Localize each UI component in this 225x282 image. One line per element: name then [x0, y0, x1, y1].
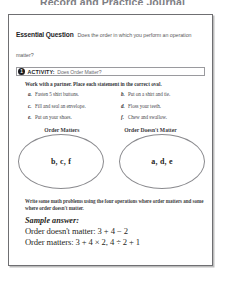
- activity-label: ACTIVITY:: [28, 69, 55, 75]
- page-header-title: Record and Practice Journal: [0, 0, 225, 5]
- activity-title: Does Order Matter?: [57, 69, 101, 75]
- oval-order-matters: b, c, f: [18, 134, 104, 189]
- list-item-label: Chew and swallow.: [128, 114, 167, 120]
- sample-answer-heading: Sample answer:: [25, 216, 205, 225]
- oval-label-row: Order Matters Order Doesn't Matter: [16, 127, 205, 133]
- oval-label-order-doesnt-matter: Order Doesn't Matter: [124, 127, 176, 133]
- worksheet-page: Essential Question Does the order in whi…: [8, 14, 213, 266]
- list-item: d. Floss your teeth.: [121, 103, 206, 109]
- oval-order-matters-answer: b, c, f: [51, 157, 71, 166]
- list-item: c. Fill and seal an envelope.: [28, 103, 121, 109]
- oval-label-order-matters: Order Matters: [44, 127, 79, 133]
- list-item-label: Fasten 5 shirt buttons.: [35, 91, 79, 97]
- list-item-label: Floss your teeth.: [128, 103, 161, 109]
- essential-question-label: Essential Question: [16, 31, 74, 38]
- list-item-letter: b.: [121, 91, 128, 97]
- list-item-letter: e.: [28, 114, 35, 120]
- essential-question-block: Essential Question Does the order in whi…: [16, 22, 205, 62]
- oval-order-doesnt-matter: a, d, e: [119, 134, 205, 189]
- activity-header-bar: 1 ACTIVITY: Does Order Matter?: [16, 67, 205, 76]
- list-item: b. Put on a shirt and tie.: [121, 91, 206, 97]
- directions-text: Work with a partner. Place each statemen…: [25, 81, 205, 87]
- list-item-letter: a.: [28, 91, 35, 97]
- sample-answer-line-order-matters: Order matters: 3 + 4 × 2, 4 ÷ 2 + 1: [25, 237, 205, 247]
- oval-diagram: b, c, f a, d, e: [16, 134, 205, 192]
- list-item: f. Chew and swallow.: [121, 114, 206, 120]
- list-item-label: Fill and seal an envelope.: [35, 103, 86, 109]
- activity-number-badge: 1: [18, 68, 25, 75]
- oval-order-doesnt-matter-answer: a, d, e: [151, 157, 172, 166]
- list-item-label: Put on your shoes.: [35, 114, 72, 120]
- writing-prompt-text: Write some math problems using the four …: [25, 198, 205, 213]
- list-item-letter: f.: [121, 114, 128, 120]
- list-item-label: Put on a shirt and tie.: [128, 91, 170, 97]
- list-item: a. Fasten 5 shirt buttons.: [28, 91, 121, 97]
- list-item-letter: c.: [28, 103, 35, 109]
- statement-list: a. Fasten 5 shirt buttons. b. Put on a s…: [28, 91, 206, 120]
- sample-answer-line-order-doesnt-matter: Order doesn't matter: 3 + 4 − 2: [25, 226, 205, 236]
- list-item-letter: d.: [121, 103, 128, 109]
- list-item: e. Put on your shoes.: [28, 114, 121, 120]
